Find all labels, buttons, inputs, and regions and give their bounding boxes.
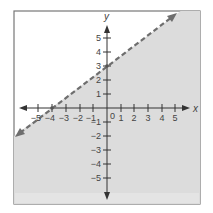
y-tick-label: 1 [96, 89, 101, 99]
x-axis-label: x [192, 103, 199, 114]
y-tick-label: −1 [91, 117, 101, 127]
y-tick-label: −4 [91, 159, 101, 169]
y-tick-label: −5 [91, 173, 101, 183]
y-axis-label: y [103, 11, 110, 22]
y-intercept-point [105, 64, 109, 68]
x-tick-label: 1 [118, 113, 123, 123]
y-tick-label: 2 [96, 75, 101, 85]
y-tick-label: 3 [96, 61, 101, 71]
y-tick-label: −2 [91, 131, 101, 141]
x-tick-label: −2 [73, 113, 83, 123]
x-tick-label: −5 [31, 113, 41, 123]
x-tick-label: −3 [59, 113, 69, 123]
y-tick-label: 5 [96, 33, 101, 43]
y-tick-label: 4 [96, 47, 101, 57]
origin-label: 0 [110, 111, 115, 121]
x-tick-label: 4 [159, 113, 164, 123]
y-tick-label: −3 [91, 145, 101, 155]
graph-plot: x y 0 −5 −4 −3 −2 −1 1 2 3 4 5 5 4 3 2 1… [0, 0, 213, 213]
x-tick-label: −4 [45, 113, 55, 123]
x-tick-label: 5 [172, 113, 177, 123]
x-intercept-point [50, 106, 54, 110]
x-tick-label: 3 [145, 113, 150, 123]
x-tick-label: 2 [131, 113, 136, 123]
